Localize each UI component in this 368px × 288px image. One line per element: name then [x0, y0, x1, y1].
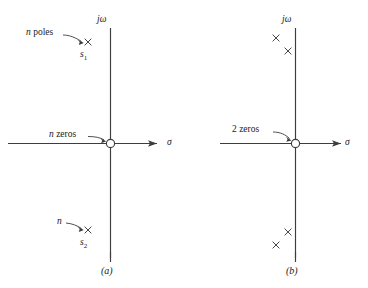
- panel-b-caption: (b): [286, 266, 298, 276]
- panel-a-s2-label: s2: [80, 238, 87, 250]
- panel-b-pole-2-marker: [285, 48, 292, 55]
- pole-zero-diagram-svg: [0, 0, 368, 288]
- panel-a-n-zeros-label: n zeros: [49, 130, 76, 140]
- panel-a-axes: [8, 28, 157, 258]
- panel-b-pole-3-marker: [285, 229, 292, 236]
- caption-ticks: [111, 252, 296, 262]
- panel-b-pole-1-marker: [273, 35, 280, 42]
- panel-a-pole-s2-marker: [85, 227, 92, 234]
- panel-b-leaders: [273, 132, 292, 142]
- figure-container: n poles s1 n zeros n s2 jω σ (a) 2 zeros…: [0, 0, 368, 288]
- panel-a-n-zeros-roman: zeros: [56, 129, 76, 139]
- panel-b-pole-4-marker: [273, 242, 280, 249]
- panel-a-jomega-label: jω: [97, 15, 106, 25]
- panel-a-n-poles-leader-arrowhead: [78, 40, 84, 45]
- panel-a-n-lower-leader-arrowhead: [78, 227, 84, 232]
- panel-a-sigma-label: σ: [167, 138, 172, 148]
- panel-a-s1-label: s1: [80, 50, 87, 62]
- panel-a-pole-s1-marker: [85, 39, 92, 46]
- panel-a-n-lower-label: n: [57, 217, 62, 227]
- panel-a-s2-sub: 2: [84, 242, 88, 250]
- panel-a-caption: (a): [101, 266, 113, 276]
- panel-a-n-zeros-leader-arrowhead: [100, 138, 106, 143]
- panel-a-n-lower-italic: n: [57, 216, 62, 226]
- panel-a-n-poles-roman: poles: [33, 27, 53, 37]
- panel-b-jomega-label: jω: [282, 15, 291, 25]
- panel-b-axes: [220, 28, 341, 258]
- panel-b-sigma-label: σ: [345, 138, 350, 148]
- panel-b-two-zeros-label: 2 zeros: [232, 125, 259, 135]
- panel-b-origin-zero-marker: [291, 139, 299, 147]
- panel-b-two-zeros-text: 2 zeros: [232, 124, 259, 134]
- panel-a-s1-sub: 1: [84, 54, 88, 62]
- panel-a-n-poles-label: n poles: [26, 28, 53, 38]
- panel-a-origin-zero-marker: [106, 139, 114, 147]
